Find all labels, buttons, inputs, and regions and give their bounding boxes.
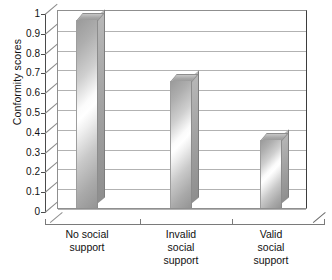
chart-floor [45, 208, 324, 224]
axis-depth-connector [45, 24, 58, 35]
axis-depth-connector [45, 63, 58, 74]
y-axis-tick-label: 0 [14, 207, 40, 217]
axis-depth-connector [45, 83, 58, 94]
x-axis-category-label-line: support [133, 254, 229, 267]
bar-side-face [97, 9, 105, 204]
axis-depth-connector [45, 4, 58, 15]
bar [260, 140, 282, 208]
y-axis-tick-label: 0.1 [14, 187, 40, 197]
x-axis-category-label: No socialsupport [39, 228, 135, 254]
bar-front-face [170, 81, 192, 208]
bar [170, 81, 192, 208]
y-axis-tick-label: 0.6 [14, 88, 40, 98]
floor-left-edge [50, 212, 63, 223]
axis-depth-connector [45, 123, 58, 134]
x-axis-line [45, 224, 324, 225]
y-axis-tick-label: 0.7 [14, 68, 40, 78]
bar-front-face [260, 140, 282, 208]
x-axis-category-label-line: social [133, 241, 229, 254]
x-axis-category-label: Validsocialsupport [223, 228, 319, 267]
x-axis-category-label-line: Invalid [133, 228, 229, 241]
axis-depth-connector [45, 142, 58, 153]
y-axis-tick-labels: 10.90.80.70.60.50.40.30.20.10 [14, 14, 40, 212]
floor-back-edge [57, 208, 307, 209]
x-axis-category-label-line: Valid [223, 228, 319, 241]
x-axis-category-label-line: support [39, 241, 135, 254]
x-axis-tick-mark [232, 219, 233, 225]
x-axis-category-label-line: No social [39, 228, 135, 241]
axis-depth-connector [45, 103, 58, 114]
y-axis-tick-label: 0.9 [14, 29, 40, 39]
y-axis-tick-label: 0.5 [14, 108, 40, 118]
x-axis-category-label-line: support [223, 254, 319, 267]
axis-depth-connector [45, 182, 58, 193]
bar-side-face [191, 71, 199, 204]
axis-depth-connector [45, 162, 58, 173]
bar-front-face [76, 20, 98, 208]
x-axis-tick-mark [45, 219, 46, 225]
axis-depth-connector [45, 43, 58, 54]
bar-chart: Conformity scores 10.90.80.70.60.50.40.3… [0, 0, 332, 280]
y-axis-tick-label: 0.2 [14, 167, 40, 177]
x-axis-tick-mark [324, 219, 325, 225]
y-axis-tick-label: 0.8 [14, 49, 40, 59]
x-axis-category-label-line: social [223, 241, 319, 254]
y-axis-tick-label: 0.3 [14, 148, 40, 158]
y-axis-tick-label: 1 [14, 9, 40, 19]
bar [76, 20, 98, 208]
x-axis-category-label: Invalidsocialsupport [133, 228, 229, 267]
x-axis-tick-mark [140, 219, 141, 225]
y-axis-tick-label: 0.4 [14, 128, 40, 138]
